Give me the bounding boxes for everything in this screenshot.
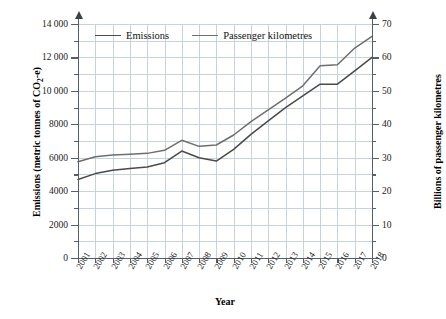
- chart-legend: Emissions Passenger kilometres: [95, 30, 312, 41]
- y-axis-right-minor-tick: [372, 241, 376, 242]
- y-axis-left-tick-label: 8000: [49, 119, 68, 129]
- y-axis-left-tick: [71, 124, 78, 125]
- y-axis-right: [372, 18, 373, 258]
- y-axis-left-tick: [71, 57, 78, 58]
- line-passenger-kilometres: [78, 36, 372, 161]
- legend-label-emissions: Emissions: [126, 30, 169, 41]
- y-axis-left-minor-tick: [74, 141, 78, 142]
- y-axis-left-title-text: Emissions (metric tonnes of CO: [31, 82, 42, 217]
- y-axis-right-tick-label: 50: [382, 86, 392, 96]
- y-axis-left-tick-label: 10 000: [42, 86, 68, 96]
- y-axis-right-tick: [372, 158, 379, 159]
- y-axis-right-tick: [372, 225, 379, 226]
- y-axis-left-tick-label: 2000: [49, 220, 68, 230]
- y-axis-right-tick: [372, 124, 379, 125]
- y-axis-left-minor-tick: [74, 108, 78, 109]
- y-axis-left-minor-tick: [74, 208, 78, 209]
- line-swatch-icon: [192, 35, 218, 36]
- legend-label-passenger-kilometres: Passenger kilometres: [223, 30, 312, 41]
- y-axis-left-tick: [71, 158, 78, 159]
- y-axis-left-arrow-icon: [75, 11, 83, 19]
- y-axis-left-tick-label: 12 000: [42, 52, 68, 62]
- y-axis-left-tick: [71, 91, 78, 92]
- y-axis-right-tick: [372, 24, 379, 25]
- legend-item-passenger-kilometres: Passenger kilometres: [192, 30, 312, 41]
- y-axis-left: [78, 18, 79, 258]
- line-swatch-icon: [95, 35, 121, 36]
- y-axis-left-tick-label: 0: [63, 253, 68, 263]
- y-axis-right-tick-label: 30: [382, 153, 392, 163]
- y-axis-right-tick-label: 60: [382, 52, 392, 62]
- y-axis-right-minor-tick: [372, 108, 376, 109]
- y-axis-right-minor-tick: [372, 41, 376, 42]
- x-axis-title: Year: [78, 296, 372, 307]
- y-axis-right-tick: [372, 191, 379, 192]
- y-axis-right-tick-label: 20: [382, 186, 392, 196]
- y-axis-left-tick: [71, 225, 78, 226]
- line-emissions: [78, 57, 372, 179]
- y-axis-left-tick-label: 4000: [49, 186, 68, 196]
- y-axis-right-minor-tick: [372, 174, 376, 175]
- y-axis-right-tick-label: 70: [382, 19, 392, 29]
- y-axis-left-title: Emissions (metric tonnes of CO2-e): [31, 27, 45, 257]
- y-axis-left-minor-tick: [74, 74, 78, 75]
- y-axis-right-tick: [372, 57, 379, 58]
- plot-area: [78, 24, 372, 258]
- y-axis-left-minor-tick: [74, 174, 78, 175]
- y-axis-left-minor-tick: [74, 241, 78, 242]
- y-axis-left-title-suffix: -e): [31, 67, 42, 78]
- y-axis-right-tick: [372, 91, 379, 92]
- y-axis-left-tick: [71, 24, 78, 25]
- y-axis-left-minor-tick: [74, 41, 78, 42]
- y-axis-right-minor-tick: [372, 74, 376, 75]
- y-axis-right-minor-tick: [372, 141, 376, 142]
- series-lines: [78, 24, 372, 258]
- y-axis-right-title: Billions of passenger kilometres: [432, 27, 443, 257]
- chart-container: 0200040006000800010 00012 00014 000 0102…: [0, 0, 446, 319]
- y-axis-right-minor-tick: [372, 208, 376, 209]
- y-axis-right-arrow-icon: [369, 11, 377, 19]
- y-axis-right-tick-label: 10: [382, 220, 392, 230]
- y-axis-left-tick: [71, 191, 78, 192]
- legend-item-emissions: Emissions: [95, 30, 169, 41]
- y-axis-left-tick-label: 14 000: [42, 19, 68, 29]
- co2-subscript: 2: [36, 78, 45, 82]
- y-axis-right-tick-label: 40: [382, 119, 392, 129]
- y-axis-left-tick-label: 6000: [49, 153, 68, 163]
